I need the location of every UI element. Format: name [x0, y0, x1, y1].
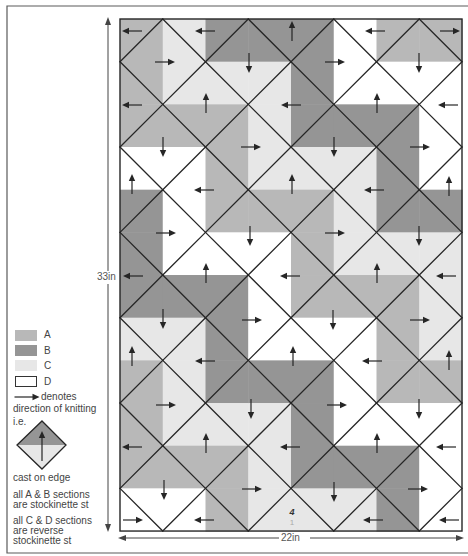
- legend-arrow-right-icon: [15, 394, 40, 400]
- width-dimension-label: 22in: [280, 532, 301, 544]
- arrow-left-icon: [118, 535, 126, 541]
- legend-direction-text: direction of knitting: [13, 403, 96, 415]
- arrow-right-icon: [456, 535, 464, 541]
- height-dimension-label: 33in: [96, 271, 117, 283]
- swatch-b-label: B: [44, 345, 51, 357]
- swatch-a: [15, 330, 37, 341]
- arrow-up-icon: [105, 17, 111, 25]
- legend-ie-text: i.e.: [13, 416, 26, 428]
- swatch-a-label: A: [44, 329, 51, 341]
- legend-cast-on-text: cast on edge: [13, 472, 70, 484]
- arrow-head: [33, 394, 40, 400]
- swatch-c: [15, 360, 37, 371]
- note-ab-line-2: are stockinette st: [13, 499, 89, 511]
- note-cd-line-3: stockinette st: [13, 535, 71, 547]
- swatch-d: [15, 376, 37, 387]
- swatch-b: [15, 345, 37, 356]
- legend-arrow-text: denotes: [41, 391, 77, 403]
- swatch-c-label: C: [44, 360, 51, 372]
- marker-glyph-top: 4: [288, 507, 294, 517]
- swatch-d-label: D: [44, 376, 51, 388]
- marker-glyph-bottom: 1: [290, 518, 295, 527]
- arrow-down-icon: [105, 524, 111, 532]
